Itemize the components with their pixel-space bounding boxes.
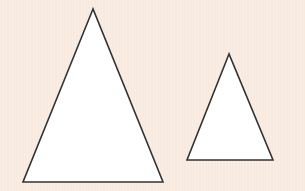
small-triangle xyxy=(187,54,273,160)
triangles-figure xyxy=(0,0,305,191)
diagram-canvas xyxy=(0,0,305,191)
large-triangle xyxy=(23,9,163,182)
